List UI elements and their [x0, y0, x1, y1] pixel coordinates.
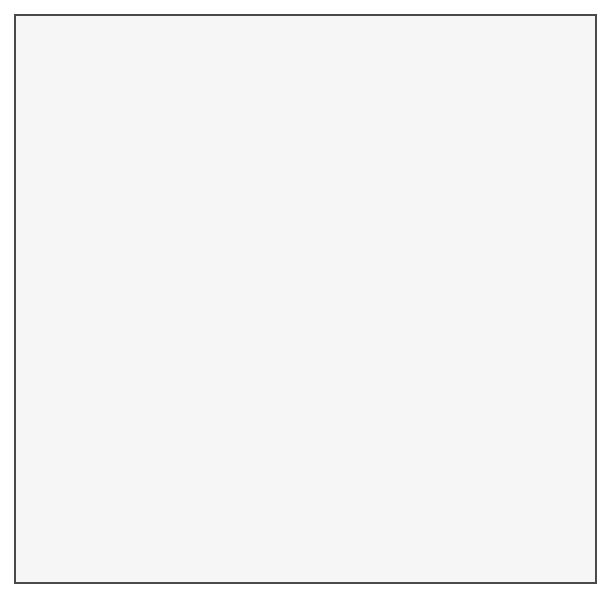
artwork-frame — [14, 14, 597, 584]
artwork-stage — [0, 0, 613, 608]
girih-pattern-svg — [16, 16, 597, 584]
